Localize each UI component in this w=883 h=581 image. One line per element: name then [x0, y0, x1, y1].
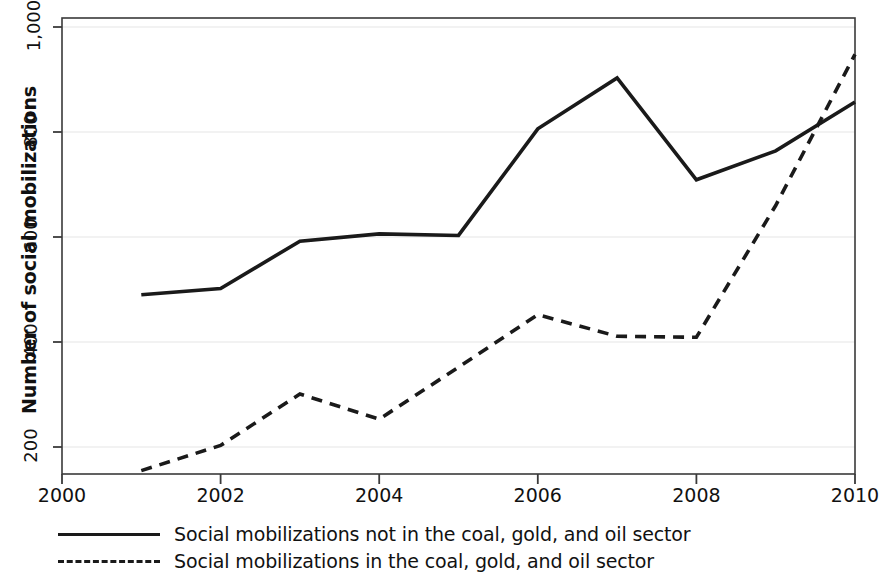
legend-item-dashed: Social mobilizations in the coal, gold, … — [55, 547, 845, 574]
legend-key-solid-line — [58, 527, 160, 541]
plot-frame — [62, 18, 855, 474]
data-series-group — [141, 54, 855, 470]
legend-label-not-in-sector: Social mobilizations not in the coal, go… — [174, 523, 691, 545]
legend-key-dashed-line — [58, 554, 160, 568]
legend-item-solid: Social mobilizations not in the coal, go… — [55, 520, 845, 547]
series-line-dashed — [141, 54, 855, 470]
axis-frame — [62, 18, 855, 474]
chart-legend: Social mobilizations not in the coal, go… — [55, 520, 845, 574]
series-line-solid — [141, 78, 855, 295]
axis-ticks — [53, 27, 855, 484]
legend-label-in-sector: Social mobilizations in the coal, gold, … — [174, 550, 654, 572]
